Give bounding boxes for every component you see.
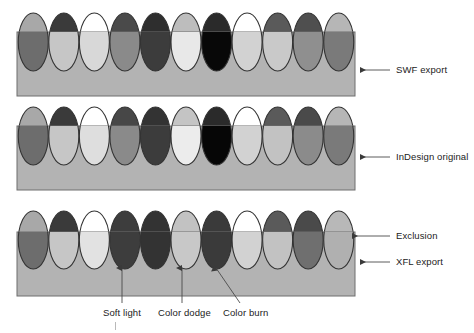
- row-xfl-export: [17, 211, 355, 296]
- page-margin-tick: [115, 322, 116, 330]
- annotation-label-exclusion: Exclusion: [396, 231, 438, 241]
- row-label-indesign-original: InDesign original: [396, 152, 468, 162]
- annotation-label-color-burn: Color burn: [223, 308, 268, 318]
- figure-root: SWF export InDesign original XFL export …: [0, 0, 474, 333]
- row-label-xfl-export: XFL export: [396, 257, 443, 267]
- row-label-swf-export: SWF export: [396, 65, 447, 75]
- blend-mode-figure: [0, 0, 474, 333]
- rows-group: [17, 13, 355, 296]
- row-indesign-original: [17, 107, 355, 190]
- annotation-label-soft-light: Soft light: [103, 308, 141, 318]
- row-swf-export: [17, 13, 355, 96]
- annotation-label-color-dodge: Color dodge: [158, 308, 211, 318]
